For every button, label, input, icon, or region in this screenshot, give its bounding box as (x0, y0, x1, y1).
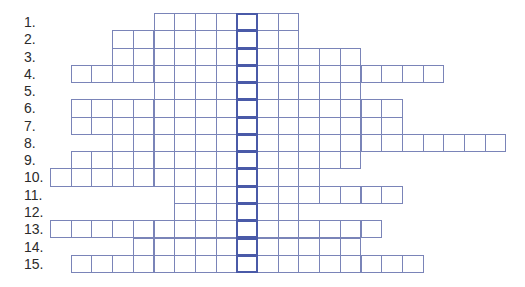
keyword-cell[interactable] (236, 238, 258, 256)
keyword-cell[interactable] (236, 151, 258, 169)
letter-cell[interactable] (278, 238, 300, 256)
keyword-cell[interactable] (236, 203, 258, 221)
letter-cell[interactable] (278, 220, 300, 238)
letter-cell[interactable] (298, 220, 320, 238)
letter-cell[interactable] (112, 151, 134, 169)
letter-cell[interactable] (216, 220, 238, 238)
letter-cell[interactable] (298, 134, 320, 152)
keyword-cell[interactable] (236, 30, 258, 48)
letter-cell[interactable] (133, 30, 155, 48)
letter-cell[interactable] (257, 168, 279, 186)
letter-cell[interactable] (278, 168, 300, 186)
letter-cell[interactable] (319, 99, 341, 117)
letter-cell[interactable] (50, 168, 72, 186)
letter-cell[interactable] (174, 82, 196, 100)
keyword-cell[interactable] (236, 82, 258, 100)
letter-cell[interactable] (216, 203, 238, 221)
letter-cell[interactable] (154, 13, 176, 31)
letter-cell[interactable] (174, 151, 196, 169)
letter-cell[interactable] (340, 134, 362, 152)
letter-cell[interactable] (216, 48, 238, 66)
letter-cell[interactable] (71, 168, 93, 186)
letter-cell[interactable] (112, 255, 134, 273)
letter-cell[interactable] (423, 65, 445, 83)
letter-cell[interactable] (174, 13, 196, 31)
letter-cell[interactable] (278, 134, 300, 152)
letter-cell[interactable] (174, 99, 196, 117)
letter-cell[interactable] (174, 238, 196, 256)
letter-cell[interactable] (257, 151, 279, 169)
letter-cell[interactable] (319, 238, 341, 256)
letter-cell[interactable] (71, 255, 93, 273)
letter-cell[interactable] (298, 186, 320, 204)
letter-cell[interactable] (154, 82, 176, 100)
letter-cell[interactable] (319, 151, 341, 169)
letter-cell[interactable] (216, 134, 238, 152)
letter-cell[interactable] (216, 168, 238, 186)
letter-cell[interactable] (195, 134, 217, 152)
letter-cell[interactable] (402, 255, 424, 273)
letter-cell[interactable] (154, 220, 176, 238)
letter-cell[interactable] (133, 238, 155, 256)
letter-cell[interactable] (340, 82, 362, 100)
letter-cell[interactable] (319, 48, 341, 66)
letter-cell[interactable] (154, 255, 176, 273)
letter-cell[interactable] (91, 168, 113, 186)
letter-cell[interactable] (216, 13, 238, 31)
letter-cell[interactable] (298, 65, 320, 83)
letter-cell[interactable] (340, 117, 362, 135)
letter-cell[interactable] (340, 65, 362, 83)
letter-cell[interactable] (133, 168, 155, 186)
letter-cell[interactable] (71, 65, 93, 83)
letter-cell[interactable] (195, 186, 217, 204)
letter-cell[interactable] (174, 203, 196, 221)
keyword-cell[interactable] (236, 134, 258, 152)
letter-cell[interactable] (195, 151, 217, 169)
letter-cell[interactable] (71, 220, 93, 238)
keyword-cell[interactable] (236, 99, 258, 117)
letter-cell[interactable] (216, 99, 238, 117)
letter-cell[interactable] (91, 99, 113, 117)
letter-cell[interactable] (195, 238, 217, 256)
letter-cell[interactable] (174, 186, 196, 204)
letter-cell[interactable] (133, 151, 155, 169)
letter-cell[interactable] (257, 186, 279, 204)
letter-cell[interactable] (257, 13, 279, 31)
letter-cell[interactable] (91, 255, 113, 273)
letter-cell[interactable] (112, 134, 134, 152)
letter-cell[interactable] (361, 134, 383, 152)
letter-cell[interactable] (257, 238, 279, 256)
letter-cell[interactable] (423, 134, 445, 152)
letter-cell[interactable] (112, 168, 134, 186)
letter-cell[interactable] (195, 255, 217, 273)
letter-cell[interactable] (133, 65, 155, 83)
keyword-cell[interactable] (236, 255, 258, 273)
letter-cell[interactable] (154, 65, 176, 83)
letter-cell[interactable] (71, 117, 93, 135)
letter-cell[interactable] (216, 238, 238, 256)
letter-cell[interactable] (298, 99, 320, 117)
letter-cell[interactable] (402, 134, 424, 152)
letter-cell[interactable] (319, 220, 341, 238)
letter-cell[interactable] (340, 255, 362, 273)
letter-cell[interactable] (133, 117, 155, 135)
letter-cell[interactable] (133, 255, 155, 273)
letter-cell[interactable] (319, 134, 341, 152)
letter-cell[interactable] (319, 255, 341, 273)
letter-cell[interactable] (278, 203, 300, 221)
letter-cell[interactable] (133, 220, 155, 238)
letter-cell[interactable] (195, 99, 217, 117)
letter-cell[interactable] (216, 186, 238, 204)
keyword-cell[interactable] (236, 186, 258, 204)
letter-cell[interactable] (361, 117, 383, 135)
letter-cell[interactable] (381, 65, 403, 83)
letter-cell[interactable] (91, 117, 113, 135)
letter-cell[interactable] (91, 220, 113, 238)
letter-cell[interactable] (340, 186, 362, 204)
letter-cell[interactable] (112, 48, 134, 66)
keyword-cell[interactable] (236, 168, 258, 186)
letter-cell[interactable] (154, 99, 176, 117)
letter-cell[interactable] (443, 134, 465, 152)
letter-cell[interactable] (298, 151, 320, 169)
letter-cell[interactable] (257, 117, 279, 135)
